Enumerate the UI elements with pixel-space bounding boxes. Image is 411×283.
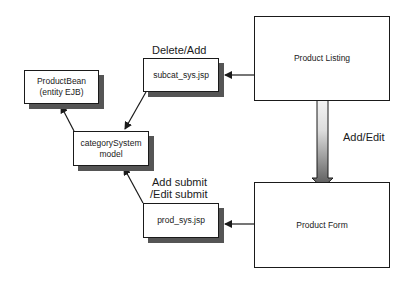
node-category-system-model: categorySystem model — [73, 131, 149, 166]
arrow-subcat-to-category — [125, 92, 146, 129]
product-listing-label: Product Listing — [294, 53, 350, 64]
node-subcat-sys-jsp: subcat_sys.jsp — [143, 58, 219, 92]
edge-label-add-submit: Add submit — [152, 176, 207, 188]
product-bean-type: (entity EJB) — [40, 87, 84, 98]
edge-label-edit-submit: /Edit submit — [150, 188, 207, 200]
node-prod-sys-jsp: prod_sys.jsp — [143, 203, 219, 238]
category-system-name: categorySystem — [81, 138, 142, 149]
edge-label-delete-add: Delete/Add — [152, 44, 206, 56]
category-system-type: model — [99, 149, 122, 160]
big-arrow-listing-to-form — [312, 100, 333, 188]
node-product-bean: ProductBean (entity EJB) — [24, 70, 99, 104]
arrow-prodsys-to-category — [124, 168, 143, 203]
edge-label-add-edit: Add/Edit — [343, 131, 385, 143]
prod-sys-label: prod_sys.jsp — [157, 215, 205, 226]
product-form-label: Product Form — [296, 220, 348, 231]
arrow-category-to-productbean — [61, 106, 74, 131]
subcat-sys-label: subcat_sys.jsp — [153, 70, 209, 81]
node-product-listing: Product Listing — [254, 16, 390, 101]
product-bean-name: ProductBean — [37, 76, 86, 87]
node-product-form: Product Form — [254, 182, 390, 268]
